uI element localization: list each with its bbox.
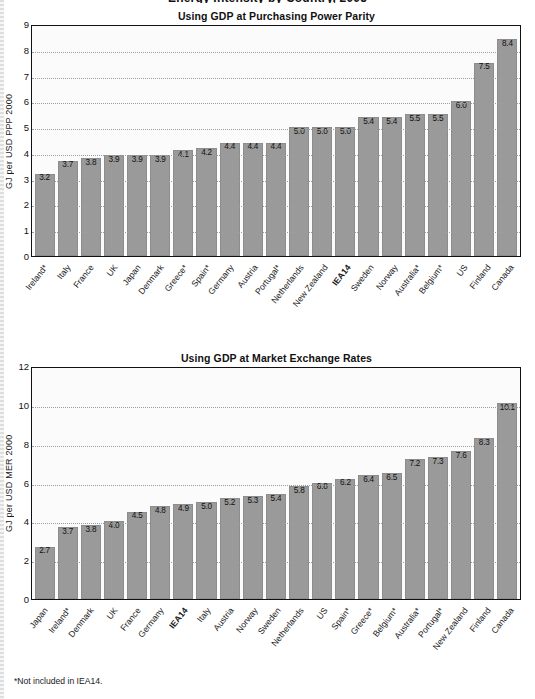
x-label-cell: US: [311, 602, 334, 603]
y-tick-label: 6: [24, 98, 29, 108]
bar-cell: 4.1: [172, 26, 195, 256]
y-tick-label: 12: [18, 362, 29, 372]
bar-value-label: 5.2: [218, 499, 241, 507]
x-label-cell: IEA14: [171, 602, 194, 603]
gridline: [32, 485, 520, 486]
bar-value-label: 5.4: [264, 495, 287, 503]
x-label-cell: US: [451, 259, 474, 260]
y-tick-label: 8: [24, 46, 29, 56]
bar: [474, 63, 494, 256]
x-label-cell: IEA14: [334, 259, 357, 260]
bar: [335, 479, 355, 599]
bar-cell: 4.4: [241, 26, 264, 256]
bar-value-label: 5.5: [426, 115, 449, 123]
chart-ppp-plot-frame: 3.23.73.83.93.93.94.14.24.44.44.45.05.05…: [31, 25, 521, 257]
gridline: [32, 181, 520, 182]
x-label-cell: France: [78, 259, 101, 260]
bar: [451, 451, 471, 599]
bar-value-label: 6.5: [380, 474, 403, 482]
x-label-cell: Canada: [498, 259, 521, 260]
bar-cell: 3.9: [149, 26, 172, 256]
bar-cell: 5.4: [357, 26, 380, 256]
gridline: [32, 407, 520, 408]
x-label-cell: Ireland*: [54, 602, 77, 603]
bar: [405, 114, 425, 256]
bar-value-label: 5.0: [195, 503, 218, 511]
y-tick-label: 2: [24, 556, 29, 566]
x-label-cell: Australia*: [404, 259, 427, 260]
bar-cell: 6.5: [380, 368, 403, 599]
bar-value-label: 6.4: [357, 476, 380, 484]
bar-cell: 3.8: [79, 26, 102, 256]
chart-ppp-y-axis-label: GJ per USD PPP 2000: [2, 25, 16, 257]
x-label-cell: Australia*: [404, 602, 427, 603]
chart-mer-bars: 2.73.73.84.04.54.84.95.05.25.35.45.86.06…: [32, 368, 520, 599]
bar-cell: 4.5: [126, 368, 149, 599]
bar: [405, 459, 425, 599]
bar-value-label: 4.4: [241, 143, 264, 151]
x-label-cell: Italy: [54, 259, 77, 260]
gridline: [32, 129, 520, 130]
chart-ppp-y-axis-ticks: 0123456789: [16, 25, 30, 257]
bar-cell: 4.8: [149, 368, 172, 599]
bar: [150, 506, 170, 599]
bar-cell: 8.4: [496, 26, 519, 256]
bar-cell: 6.0: [450, 26, 473, 256]
chart-mer-title: Using GDP at Market Exchange Rates: [0, 352, 535, 364]
bar-value-label: 5.5: [403, 115, 426, 123]
bar-cell: 6.0: [311, 368, 334, 599]
x-label-cell: Italy: [194, 602, 217, 603]
bar-cell: 5.4: [264, 368, 287, 599]
bar-value-label: 7.2: [403, 460, 426, 468]
bar-cell: 5.0: [288, 26, 311, 256]
y-tick-label: 0: [24, 595, 29, 605]
x-label-cell: Portugal*: [264, 259, 287, 260]
chart-ppp-x-axis-labels: Ireland*ItalyFranceUKJapanDenmarkGreece*…: [31, 259, 521, 260]
x-label-cell: Portugal*: [428, 602, 451, 603]
bar-cell: 4.4: [264, 26, 287, 256]
bar-cell: 5.0: [334, 26, 357, 256]
bar-value-label: 3.9: [149, 156, 172, 164]
y-tick-label: 6: [24, 479, 29, 489]
gridline: [32, 155, 520, 156]
x-label-cell: Finland: [474, 602, 497, 603]
bar: [497, 39, 517, 256]
x-label-cell: Japan: [31, 602, 54, 603]
bar-value-label: 4.4: [218, 143, 241, 151]
bar-cell: 5.5: [426, 26, 449, 256]
bar-value-label: 2.7: [33, 547, 56, 555]
bar: [243, 496, 263, 599]
bar-cell: 5.3: [241, 368, 264, 599]
bar: [382, 473, 402, 599]
gridline: [32, 562, 520, 563]
x-label-cell: Spain*: [194, 259, 217, 260]
gridline: [32, 78, 520, 79]
bar-cell: 7.6: [450, 368, 473, 599]
bar-value-label: 3.9: [126, 156, 149, 164]
x-label-cell: Germany: [218, 259, 241, 260]
bar-value-label: 7.6: [450, 452, 473, 460]
bar-cell: 4.9: [172, 368, 195, 599]
bar-cell: 4.2: [195, 26, 218, 256]
chart-mer-y-axis-ticks: 024681012: [16, 367, 30, 600]
bar-cell: 3.8: [79, 368, 102, 599]
chart-ppp-title: Using GDP at Purchasing Power Parity: [0, 10, 535, 22]
bar-cell: 10.1: [496, 368, 519, 599]
y-tick-label: 10: [18, 401, 29, 411]
x-label-cell: Netherlands: [288, 259, 311, 260]
bar-cell: 7.3: [426, 368, 449, 599]
x-label-cell: Sweden: [264, 602, 287, 603]
y-tick-label: 4: [24, 518, 29, 528]
x-label-cell: Denmark: [148, 259, 171, 260]
bar-value-label: 3.9: [102, 156, 125, 164]
gridline: [32, 523, 520, 524]
x-label-cell: Germany: [148, 602, 171, 603]
y-tick-label: 5: [24, 123, 29, 133]
x-label-cell: New Zealand: [451, 602, 474, 603]
bar-value-label: 4.8: [149, 507, 172, 515]
bar-value-label: 5.4: [380, 118, 403, 126]
bar-value-label: 5.8: [288, 487, 311, 495]
bar: [358, 117, 378, 256]
x-label-cell: UK: [101, 602, 124, 603]
x-label-cell: Denmark: [78, 602, 101, 603]
